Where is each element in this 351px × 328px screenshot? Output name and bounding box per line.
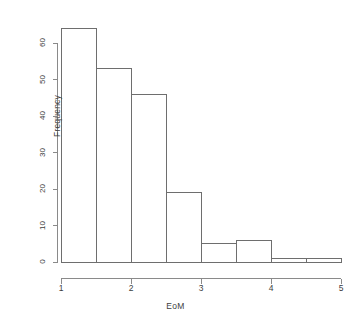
bars-group (61, 28, 341, 262)
histogram-bar (96, 69, 131, 262)
y-axis-title: Frequency (52, 56, 62, 176)
x-axis-title: EoM (0, 301, 351, 311)
x-axis-tick-label: 2 (121, 283, 141, 293)
y-axis-tick-label: 30 (38, 144, 47, 160)
y-axis-tick-label: 50 (38, 71, 47, 87)
histogram-bar (166, 193, 201, 262)
y-axis: Frequency 0102030405060 (0, 0, 70, 328)
x-axis-tick-label: 4 (261, 283, 281, 293)
y-axis-tick-label: 60 (38, 35, 47, 51)
y-axis-tick-label: 0 (38, 254, 47, 270)
y-axis-tick-label: 20 (38, 181, 47, 197)
histogram-bar (236, 240, 271, 262)
y-axis-tick-label: 40 (38, 108, 47, 124)
histogram-bar (131, 94, 166, 262)
x-axis-tick-label: 3 (191, 283, 211, 293)
x-axis-tick-label: 1 (51, 283, 71, 293)
y-axis-tick-label: 10 (38, 217, 47, 233)
histogram-bar (271, 258, 306, 262)
histogram-bar (306, 258, 341, 262)
x-axis-tick-label: 5 (331, 283, 351, 293)
histogram-bar (201, 244, 236, 262)
histogram-plot: Frequency 0102030405060 EoM 12345 (0, 0, 351, 328)
